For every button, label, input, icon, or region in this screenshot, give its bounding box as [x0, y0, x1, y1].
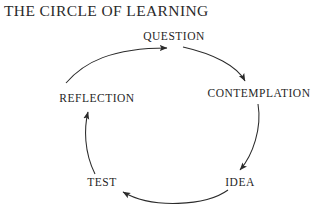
arrow-idea-to-test: [123, 190, 228, 203]
arrow-reflection-to-question: [66, 48, 167, 83]
arrow-question-to-contemplation: [183, 47, 245, 81]
node-label-test: TEST: [85, 176, 118, 188]
node-label-reflection: REFLECTION: [57, 92, 136, 104]
node-label-question: QUESTION: [141, 30, 207, 42]
node-label-contemplation: CONTEMPLATION: [206, 87, 313, 99]
arrow-contemplation-to-idea: [240, 104, 259, 170]
diagram-canvas: THE CIRCLE OF LEARNING QUESTION CONTEMPL…: [0, 0, 324, 220]
node-label-idea: IDEA: [223, 176, 256, 188]
arrow-test-to-reflection: [86, 112, 95, 174]
